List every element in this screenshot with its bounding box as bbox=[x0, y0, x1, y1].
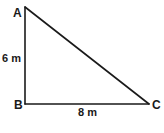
vertex-label-c: C bbox=[152, 98, 161, 112]
side-ab-length-label: 6 m bbox=[2, 52, 21, 64]
side-ac-hypotenuse bbox=[25, 7, 149, 104]
vertex-label-a: A bbox=[13, 6, 22, 20]
right-triangle-diagram: A B C 6 m 8 m bbox=[0, 0, 164, 133]
triangle-edges bbox=[25, 7, 149, 104]
vertex-label-b: B bbox=[14, 98, 23, 112]
side-bc-length-label: 8 m bbox=[78, 106, 97, 118]
